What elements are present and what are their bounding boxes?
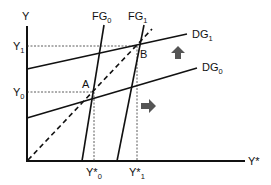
y0-label: Y0 [13,86,25,101]
ystar0-label: Y*0 [86,166,102,181]
point-a-label: A [82,78,90,90]
point-b-label: B [140,48,147,60]
dg0-curve [27,68,197,118]
right-arrow-icon [141,99,156,113]
y-axis-label: Y [22,10,30,22]
fg0-curve [82,25,104,161]
dg1-label: DG1 [192,28,213,43]
dg0-label: DG0 [202,61,223,76]
x-axis-label: Y* [248,155,260,167]
fg0-label: FG0 [92,10,111,25]
y1-label: Y1 [13,40,25,55]
45-degree-line [28,29,152,160]
fg1-curve [117,25,144,161]
fg1-label: FG1 [128,10,147,25]
dg1-curve [27,34,187,69]
diagram-canvas: Y Y* Y1 Y0 Y*0 Y*1 FG0 FG1 DG1 DG0 A B [0,0,271,185]
up-arrow-icon [171,46,185,59]
ystar1-label: Y*1 [129,166,145,181]
